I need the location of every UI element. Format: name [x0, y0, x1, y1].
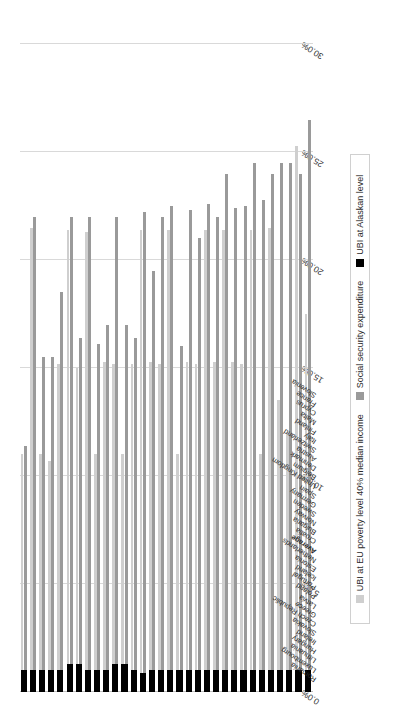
- bar-1: [70, 217, 73, 692]
- bar-2: [140, 673, 146, 692]
- bar-row: [203, 44, 212, 692]
- bar-2: [131, 670, 137, 692]
- bar-row: [221, 44, 230, 692]
- bar-1: [161, 217, 164, 692]
- bar-1: [33, 217, 36, 692]
- bar-row: [185, 44, 194, 692]
- legend-label: Social security expenditure: [355, 281, 365, 389]
- bar-1: [198, 238, 201, 692]
- bar-1: [143, 212, 146, 692]
- legend-label: UBI at EU poverty level 40% median incom…: [355, 414, 365, 591]
- bar-1: [207, 204, 210, 692]
- bar-1: [106, 325, 109, 692]
- bar-1: [79, 338, 82, 692]
- bar-row: [130, 44, 139, 692]
- bar-row: [84, 44, 93, 692]
- bar-2: [39, 670, 45, 692]
- legend-swatch-icon: [356, 392, 364, 400]
- bar-2: [195, 670, 201, 692]
- bar-row: [93, 44, 102, 692]
- bar-row: [102, 44, 111, 692]
- legend-label: UBI at Alaskan level: [355, 175, 365, 255]
- bar-2: [250, 670, 256, 692]
- bar-1: [51, 357, 54, 692]
- bar-1: [115, 217, 118, 692]
- bar-2: [30, 670, 36, 692]
- bar-row: [139, 44, 148, 692]
- bar-row: [57, 44, 66, 692]
- bar-1: [125, 325, 128, 692]
- bar-row: [38, 44, 47, 692]
- bar-2: [57, 670, 63, 692]
- bar-2: [240, 670, 246, 692]
- bar-2: [186, 670, 192, 692]
- bar-2: [48, 670, 54, 692]
- bar-2: [121, 664, 127, 692]
- bar-1: [189, 210, 192, 692]
- bar-2: [76, 664, 82, 692]
- bar-row: [157, 44, 166, 692]
- bar-row: [121, 44, 130, 692]
- bar-row: [176, 44, 185, 692]
- bar-2: [259, 670, 265, 692]
- bar-row: [75, 44, 84, 692]
- bar-1: [180, 346, 183, 692]
- bar-1: [134, 338, 137, 692]
- bar-2: [103, 670, 109, 692]
- chart-legend: UBI at EU poverty level 40% median incom…: [350, 154, 370, 624]
- bar-2: [268, 670, 274, 692]
- bar-1: [225, 174, 228, 692]
- bar-1: [216, 217, 219, 692]
- bar-row: [231, 44, 240, 692]
- bar-2: [21, 670, 27, 692]
- legend-item[interactable]: UBI at Alaskan level: [355, 175, 365, 267]
- bar-1: [42, 357, 45, 692]
- bar-2: [277, 670, 283, 692]
- bar-2: [158, 670, 164, 692]
- bar-2: [149, 670, 155, 692]
- value-axis-tick: 0.0%: [299, 688, 343, 716]
- bar-2: [222, 670, 228, 692]
- bar-row: [29, 44, 38, 692]
- bar-row: [167, 44, 176, 692]
- rotated-chart-frame: 0.0%5.0%10.0%15.0%20.0%25.0%30.0% Romani…: [0, 0, 408, 716]
- legend-item[interactable]: UBI at EU poverty level 40% median incom…: [355, 414, 365, 603]
- bar-row: [148, 44, 157, 692]
- bar-2: [286, 670, 292, 692]
- value-axis: 0.0%5.0%10.0%15.0%20.0%25.0%30.0%: [0, 692, 293, 716]
- bar-2: [176, 670, 182, 692]
- bar-chart: 0.0%5.0%10.0%15.0%20.0%25.0%30.0% Romani…: [0, 0, 408, 716]
- bar-row: [20, 44, 29, 692]
- bar-2: [85, 670, 91, 692]
- bar-2: [213, 670, 219, 692]
- legend-swatch-icon: [356, 595, 364, 603]
- bar-1: [170, 206, 173, 692]
- bar-2: [67, 664, 73, 692]
- bar-1: [24, 446, 27, 692]
- bar-2: [204, 670, 210, 692]
- bar-row: [66, 44, 75, 692]
- bar-1: [97, 344, 100, 692]
- bar-1: [88, 217, 91, 692]
- bar-1: [152, 271, 155, 692]
- bar-row: [112, 44, 121, 692]
- bar-1: [234, 208, 237, 692]
- legend-swatch-icon: [356, 259, 364, 267]
- bar-row: [194, 44, 203, 692]
- bar-2: [94, 670, 100, 692]
- bar-2: [112, 664, 118, 692]
- bar-row: [212, 44, 221, 692]
- bar-row: [47, 44, 56, 692]
- bar-1: [60, 292, 63, 692]
- bar-2: [231, 670, 237, 692]
- bar-2: [167, 670, 173, 692]
- legend-item[interactable]: Social security expenditure: [355, 281, 365, 401]
